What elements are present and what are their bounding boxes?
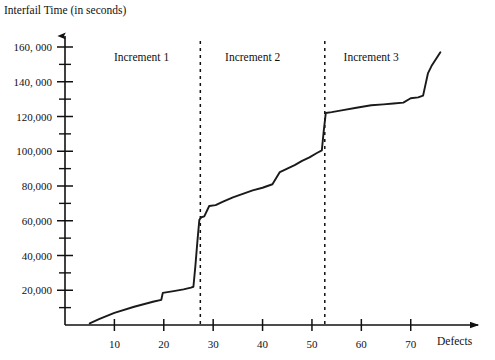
y-tick-label: 140, 000 — [14, 76, 53, 88]
y-axis-tick-labels: 20,00040,00060,00080,000100,000120,00014… — [14, 41, 53, 296]
x-tick-label: 10 — [109, 338, 121, 350]
x-tick-label: 50 — [306, 338, 318, 350]
interfail-time-line-chart: Interfail Time (in seconds) 20,00040,000… — [0, 0, 495, 360]
x-tick-label: 20 — [158, 338, 170, 350]
y-tick-label: 80,000 — [22, 180, 53, 192]
y-tick-label: 60,000 — [22, 215, 53, 227]
y-tick-label: 160, 000 — [14, 41, 53, 53]
axes — [65, 36, 478, 325]
x-tick-label: 60 — [356, 338, 368, 350]
increment-dividers — [200, 38, 324, 324]
y-tick-label: 20,000 — [22, 284, 53, 296]
x-tick-label: 40 — [257, 338, 269, 350]
x-axis-title: Defects — [437, 335, 473, 347]
x-tick-label: 70 — [405, 338, 417, 350]
x-tick-label: 30 — [208, 338, 220, 350]
x-axis-tick-labels: 10203040506070 — [109, 338, 417, 350]
increment-labels: Increment 1Increment 2Increment 3 — [114, 51, 399, 63]
interfail-time-series — [90, 52, 441, 323]
y-tick-label: 100,000 — [16, 145, 52, 157]
increment-label: Increment 3 — [344, 51, 399, 63]
y-axis-title: Interfail Time (in seconds) — [4, 4, 126, 17]
chart-container: Interfail Time (in seconds) 20,00040,000… — [0, 0, 495, 360]
increment-label: Increment 1 — [114, 51, 169, 63]
y-tick-label: 120,000 — [16, 111, 52, 123]
y-tick-label: 40,000 — [22, 250, 53, 262]
increment-label: Increment 2 — [225, 51, 280, 63]
